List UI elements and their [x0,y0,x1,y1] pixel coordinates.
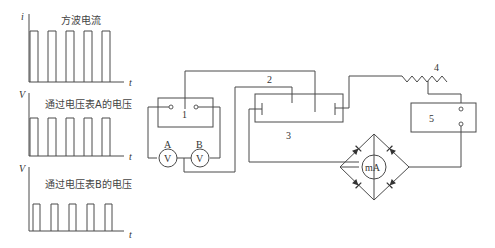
terminal-icon [194,105,198,109]
voltmeter-symbol: V [196,153,204,164]
graph-voltmeter-b-voltage: V t 通过电压表B的电压 [19,163,132,240]
circuit-diagram: 1 V A V B 2 3 4 [148,62,476,200]
milliammeter-symbol: mA [365,162,381,173]
y-axis-label: i [21,11,24,22]
y-axis-label: V [19,89,27,100]
wire [428,81,461,103]
graph-square-wave-current: i t 方波电流 [21,11,132,88]
pulse-train [33,204,112,231]
resistor-4-icon [402,76,447,82]
wire [335,76,402,108]
component-5-label: 5 [429,113,434,124]
graph-caption: 方波电流 [61,14,101,26]
terminal-icon [459,122,463,126]
component-3-label: 3 [286,130,291,141]
x-axis-label: t [129,77,132,88]
pulse-train [30,118,110,156]
pulse-train [30,31,110,82]
graph-caption: 通过电压表B的电压 [45,178,132,190]
diode-bridge: mA [340,134,409,200]
wire [185,71,315,112]
terminal-icon [459,107,463,111]
x-axis-label: t [129,151,132,162]
component-2-label: 2 [267,74,272,85]
graph-caption: 通过电压表A的电压 [45,98,132,110]
voltmeter-b-label: B [196,139,203,150]
x-axis-label: t [129,229,132,240]
voltmeter-a: V A [159,139,177,167]
wire [198,107,220,158]
voltmeter-a-label: A [164,139,172,150]
component-3-box [255,94,343,122]
voltmeter-symbol: V [164,153,172,164]
component-4-label: 4 [434,62,439,73]
y-axis-label: V [19,163,27,174]
component-1-label: 1 [182,109,187,120]
terminal-icon [169,105,173,109]
component-5-box [411,103,476,132]
graph-voltmeter-a-voltage: V t 通过电压表A的电压 [19,89,132,162]
voltmeter-b: V B [191,139,209,167]
